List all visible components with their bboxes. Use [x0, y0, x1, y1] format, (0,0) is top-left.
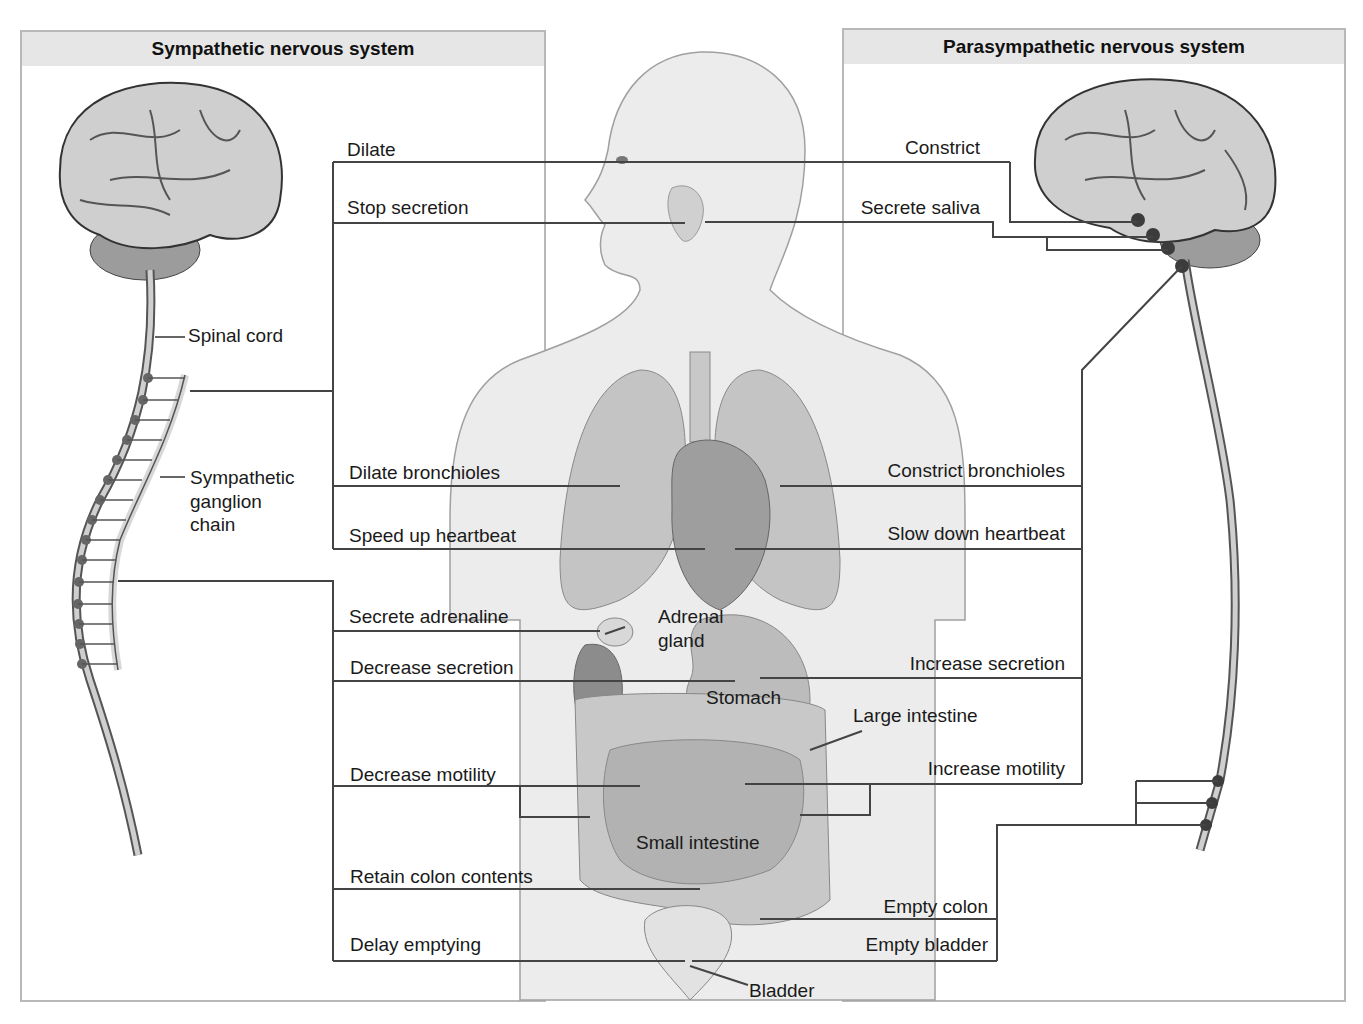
sympathetic-brain-icon: [60, 83, 282, 280]
sym-effect-salivary: Stop secretion: [347, 197, 468, 219]
para-effect-intestine: Increase motility: [928, 758, 1065, 780]
ganglion-chain-label-line3: chain: [190, 514, 235, 536]
para-effect-stomach: Increase secretion: [910, 653, 1065, 675]
spinal-cord-label: Spinal cord: [188, 325, 283, 347]
sym-effect-lungs: Dilate bronchioles: [349, 462, 500, 484]
sym-effect-heart: Speed up heartbeat: [349, 525, 516, 547]
adrenal-gland-icon: [597, 618, 633, 646]
sym-effect-adrenal: Secrete adrenaline: [349, 606, 509, 628]
small-intestine-label: Small intestine: [636, 832, 760, 854]
adrenal-gland-label-line2: gland: [658, 630, 705, 652]
sym-effect-eye: Dilate: [347, 139, 396, 161]
small-intestine-icon: [603, 740, 803, 884]
sym-effect-stomach: Decrease secretion: [350, 657, 514, 679]
para-effect-bladder: Empty bladder: [865, 934, 988, 956]
sym-effect-bladder: Delay emptying: [350, 934, 481, 956]
para-effect-colon: Empty colon: [883, 896, 988, 918]
sym-effect-intestine: Decrease motility: [350, 764, 496, 786]
sym-effect-colon: Retain colon contents: [350, 866, 533, 888]
parasympathetic-spinal-cord-icon: [1185, 260, 1235, 850]
para-effect-heart: Slow down heartbeat: [888, 523, 1065, 545]
bladder-label: Bladder: [749, 980, 815, 1002]
adrenal-gland-label-line1: Adrenal: [658, 606, 724, 628]
ganglion-chain-label-line2: ganglion: [190, 491, 262, 513]
para-effect-eye: Constrict: [905, 137, 980, 159]
para-effect-salivary: Secrete saliva: [861, 197, 980, 219]
large-intestine-label: Large intestine: [853, 705, 978, 727]
para-effect-lungs: Constrict bronchioles: [888, 460, 1065, 482]
trachea-icon: [690, 352, 710, 442]
ganglion-chain-label-line1: Sympathetic: [190, 467, 295, 489]
stomach-label: Stomach: [706, 687, 781, 709]
